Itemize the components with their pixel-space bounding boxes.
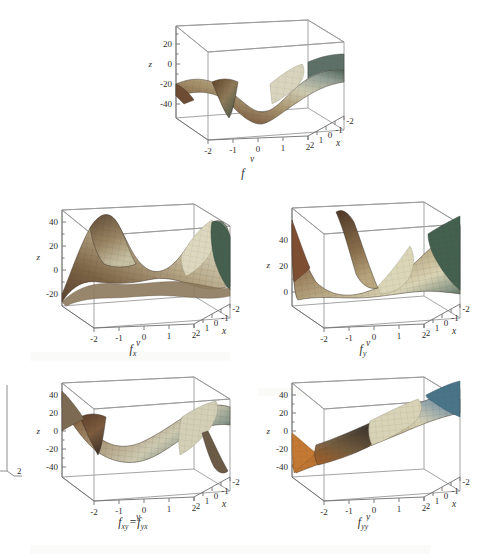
panel-fy-ytick-2: 0 (372, 332, 377, 342)
panel-fyy-xlabel: x (451, 499, 457, 509)
panel-fx-xlabel: x (221, 326, 227, 336)
panel-fx-z-axis: 40 20 0 -20 z (35, 210, 66, 306)
panel-f-surface (176, 54, 344, 124)
panel-f-xtick-0: 2 (310, 140, 315, 150)
panel-fyy: 40 20 0 -20 -40 z (252, 373, 474, 543)
panel-f-xlabel: x (335, 138, 341, 148)
panel-f-zlabel: z (147, 59, 152, 69)
panel-fy-xtick-4: -2 (462, 304, 470, 314)
panel-fxy-xtick-4: -2 (232, 477, 240, 487)
panel-fy-x-axis: 2 1 0 -1 -2 x (424, 304, 470, 338)
panel-fx-x-axis: 2 1 0 -1 -2 x (194, 304, 240, 338)
panel-fy-plot: 40 20 0 z (252, 198, 474, 346)
panel-fy-xtick-1: 1 (435, 323, 440, 333)
panel-f-xtick-1: 1 (319, 135, 324, 145)
panel-fxy-zlabel: z (35, 426, 40, 436)
panel-fyy-ztick-2: 0 (284, 426, 289, 436)
panel-fxy-xtick-1: 1 (205, 496, 210, 506)
panel-f-xtick-4: -2 (346, 116, 354, 126)
panel-fx-plot: 40 20 0 -20 z (22, 198, 244, 346)
panel-fy-ztick-2: 0 (284, 287, 289, 297)
panel-fx-ztick-1: 20 (49, 241, 59, 251)
panel-fxy-caption: fxy=fyx (22, 516, 244, 531)
panel-fy-ztick-0: 40 (279, 235, 289, 245)
panel-fx-ytick-3: 1 (167, 331, 172, 341)
panel-fy-xlabel: x (451, 326, 457, 336)
panel-f-plot: 20 0 -20 -40 z (132, 12, 354, 162)
panel-fxy-ytick-3: 1 (167, 504, 172, 514)
panel-fxy-xtick-3: -1 (221, 486, 229, 496)
panel-fyy-xtick-2: 0 (444, 491, 449, 501)
panel-f-ztick-3: -40 (160, 99, 172, 109)
panel-fxy-ztick-0: 40 (49, 390, 59, 400)
page-showthrough-2 (30, 545, 430, 554)
panel-fx-ytick-1: -1 (115, 333, 123, 343)
panel-fxy: 40 20 0 -20 -40 z (22, 373, 244, 543)
panel-fx-xtick-4: -2 (232, 304, 240, 314)
panel-fy-y-axis: -2 -1 0 1 2 y (292, 306, 426, 346)
figure-page: 2 (0, 0, 477, 557)
panel-fxy-ytick-1: -1 (115, 506, 123, 516)
panel-fx-y-axis: -2 -1 0 1 2 y (62, 306, 196, 346)
panel-fxy-ytick-2: 0 (142, 505, 147, 515)
panel-fy-caption-sub: y (363, 349, 367, 358)
panel-f-y-axis: -2 -1 0 1 2 y (176, 118, 310, 162)
panel-fy-zlabel: z (265, 260, 270, 270)
panel-fxy-x-axis: 2 1 0 -1 -2 x (194, 477, 240, 511)
panel-fyy-y-axis: -2 -1 0 1 2 y (292, 477, 426, 521)
panel-fyy-caption: fyy (252, 516, 474, 531)
panel-f-ylabel: y (249, 154, 255, 162)
panel-fyy-ztick-4: -40 (276, 462, 288, 472)
panel-fyy-x-axis: 2 1 0 -1 -2 x (424, 477, 470, 511)
panel-fy-ztick-1: 20 (279, 261, 289, 271)
panel-f-xtick-2: 0 (328, 130, 333, 140)
panel-fyy-xtick-0: 2 (426, 501, 431, 511)
panel-fxy-plot: 40 20 0 -20 -40 z (22, 373, 244, 521)
panel-fxy-ztick-2: 0 (54, 426, 59, 436)
panel-fyy-ytick-2: 0 (372, 505, 377, 515)
panel-fx-caption: fx (22, 343, 244, 358)
panel-f-caption: f (132, 167, 354, 179)
panel-f-x-axis: 2 1 0 -1 -2 x (308, 116, 354, 150)
panel-f-ztick-2: -20 (160, 79, 172, 89)
panel-fyy-ytick-1: -1 (345, 506, 353, 516)
panel-fyy-ztick-1: 20 (279, 408, 289, 418)
panel-fx-ztick-3: -20 (46, 289, 58, 299)
panel-fy-xtick-3: -1 (451, 313, 459, 323)
panel-fyy-xtick-1: 1 (435, 496, 440, 506)
panel-f-ytick-1: -1 (229, 145, 237, 155)
panel-fxy-caption-left-sub: xy (122, 522, 129, 531)
panel-f-ytick-0: -2 (204, 146, 212, 156)
panel-fy-caption: fy (252, 343, 474, 358)
panel-fxy-xtick-0: 2 (196, 501, 201, 511)
panel-f-ztick-0: 20 (163, 39, 173, 49)
panel-fxy-ztick-3: -20 (46, 444, 58, 454)
panel-f-xtick-3: -1 (335, 125, 343, 135)
panel-fx-xtick-3: -1 (221, 313, 229, 323)
panel-fxy-caption-right-sub: yx (141, 522, 148, 531)
panel-fxy-z-axis: 40 20 0 -20 -40 z (35, 383, 66, 477)
panel-fyy-z-axis: 40 20 0 -20 -40 z (265, 383, 296, 477)
panel-fyy-caption-sub: yy (361, 522, 368, 531)
panel-fx-zlabel: z (35, 252, 40, 262)
panel-f-ztick-1: 0 (168, 59, 173, 69)
panel-fxy-ztick-1: 20 (49, 408, 59, 418)
panel-fxy-ztick-4: -40 (46, 462, 58, 472)
panel-fyy-ztick-0: 40 (279, 390, 289, 400)
panel-fx-ztick-2: 0 (54, 265, 59, 275)
panel-fyy-plot: 40 20 0 -20 -40 z (252, 373, 474, 521)
panel-fx-ztick-0: 40 (49, 217, 59, 227)
panel-fxy-y-axis: -2 -1 0 1 2 y (62, 477, 196, 521)
panel-f-z-axis: 20 0 -20 -40 z (147, 26, 180, 118)
panel-fyy-ytick-3: 1 (397, 504, 402, 514)
panel-fy-ytick-3: 1 (397, 331, 402, 341)
panel-fy-z-axis: 40 20 0 z (265, 208, 296, 306)
panel-fy-xtick-2: 0 (444, 318, 449, 328)
panel-fy: 40 20 0 z (252, 198, 474, 368)
panel-fx-xtick-1: 1 (205, 323, 210, 333)
panel-fx: 40 20 0 -20 z (22, 198, 244, 368)
panel-fy-ytick-1: -1 (345, 333, 353, 343)
panel-f-ytick-3: 1 (281, 143, 286, 153)
panel-fyy-zlabel: z (265, 426, 270, 436)
panel-f-ytick-2: 0 (256, 144, 261, 154)
